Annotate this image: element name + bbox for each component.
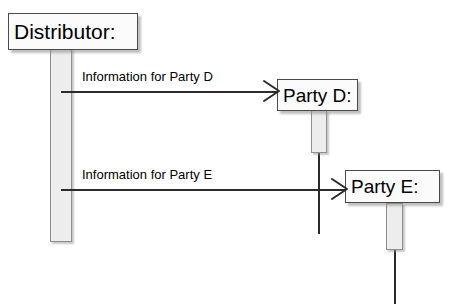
message-label-information-for-party-d: Information for Party D bbox=[82, 70, 213, 83]
arrowhead-icon-information-for-party-d bbox=[262, 79, 282, 103]
message-line-information-for-party-e bbox=[61, 189, 346, 191]
lifeline-label-party-d: Party D: bbox=[278, 86, 352, 105]
lifeline-header-party-d[interactable]: Party D: bbox=[277, 79, 358, 111]
lifeline-label-party-e: Party E: bbox=[346, 177, 419, 196]
lifeline-party-e bbox=[394, 250, 396, 304]
sequence-diagram-canvas: Distributor: Party D: Party E: Informati… bbox=[0, 0, 450, 304]
activation-bar-party-e bbox=[386, 203, 403, 250]
activation-bar-party-d bbox=[311, 110, 327, 153]
lifeline-label-distributor: Distributor: bbox=[9, 21, 116, 42]
arrowhead-icon-information-for-party-e bbox=[330, 177, 350, 201]
message-line-information-for-party-d bbox=[61, 91, 278, 93]
lifeline-header-distributor[interactable]: Distributor: bbox=[8, 13, 138, 50]
lifeline-header-party-e[interactable]: Party E: bbox=[345, 170, 440, 203]
activation-bar-distributor bbox=[50, 48, 72, 242]
message-label-information-for-party-e: Information for Party E bbox=[82, 168, 212, 181]
lifeline-party-d bbox=[318, 152, 320, 234]
